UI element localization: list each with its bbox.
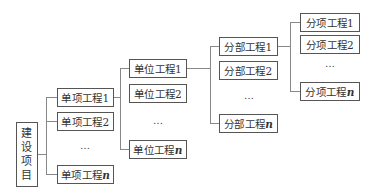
node-construction-project: 建 设 项 目	[16, 122, 38, 187]
ellipsis: …	[315, 58, 345, 69]
node-subitem-project-1: 分项工程1	[300, 13, 360, 32]
node-index: n	[347, 86, 355, 98]
node-single-project-2: 单项工程2	[57, 112, 114, 131]
root-char-2: 设	[21, 141, 32, 155]
node-index: 2	[175, 88, 182, 100]
connector-line	[210, 46, 211, 124]
root-char-1: 建	[21, 127, 32, 141]
node-index: 2	[266, 65, 273, 77]
node-index: 2	[347, 39, 354, 51]
ellipsis: …	[70, 140, 100, 151]
node-index: n	[102, 169, 110, 181]
connector-line	[120, 149, 129, 150]
node-label: 分项工程	[305, 84, 346, 99]
node-division-project-1: 分部工程1	[219, 37, 278, 56]
node-index: 2	[103, 116, 110, 128]
connector-line	[210, 46, 219, 47]
node-label: 单项工程	[61, 90, 102, 105]
node-label: 分项工程	[306, 37, 347, 52]
connector-line	[290, 22, 291, 92]
connector-line	[120, 68, 121, 150]
node-label: 分部工程	[224, 63, 265, 78]
node-label: 单位工程	[134, 86, 175, 101]
node-label: 分项工程	[306, 15, 347, 30]
node-index: n	[175, 144, 183, 156]
node-label: 单项工程	[61, 167, 102, 182]
connector-line	[187, 68, 210, 69]
node-label: 分部工程	[224, 39, 265, 54]
node-index: 1	[175, 63, 182, 75]
node-index: 1	[103, 92, 110, 104]
node-single-project-n: 单项工程n	[57, 165, 114, 184]
connector-line	[46, 121, 57, 122]
connector-line	[290, 22, 300, 23]
connector-line	[210, 123, 219, 124]
ellipsis: …	[234, 90, 264, 101]
node-index: 1	[266, 41, 273, 53]
root-char-4: 目	[21, 169, 32, 183]
connector-line	[46, 174, 57, 175]
root-char-3: 项	[21, 155, 32, 169]
node-unit-project-n: 单位工程n	[129, 140, 187, 159]
node-subitem-project-n: 分项工程n	[300, 82, 360, 101]
node-division-project-n: 分部工程n	[219, 114, 278, 133]
node-label: 分部工程	[224, 116, 265, 131]
connector-line	[46, 97, 57, 98]
node-label: 单位工程	[134, 61, 175, 76]
node-single-project-1: 单项工程1	[57, 88, 114, 107]
node-index: n	[265, 118, 273, 130]
connector-line	[46, 97, 47, 175]
connector-line	[278, 46, 290, 47]
node-label: 单位工程	[133, 142, 174, 157]
connector-line	[38, 154, 46, 155]
ellipsis: …	[143, 115, 173, 126]
node-label: 单项工程	[61, 114, 102, 129]
node-unit-project-2: 单位工程2	[129, 84, 187, 103]
node-division-project-2: 分部工程2	[219, 61, 278, 80]
node-subitem-project-2: 分项工程2	[300, 35, 360, 54]
connector-line	[290, 91, 300, 92]
node-unit-project-1: 单位工程1	[129, 59, 187, 78]
connector-line	[120, 68, 129, 69]
node-index: 1	[347, 17, 354, 29]
